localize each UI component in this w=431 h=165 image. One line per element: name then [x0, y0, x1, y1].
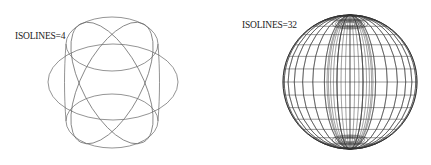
- wireframes: [0, 0, 431, 165]
- sphere-isolines-32: [283, 15, 417, 149]
- sphere-isolines-4: [48, 10, 178, 156]
